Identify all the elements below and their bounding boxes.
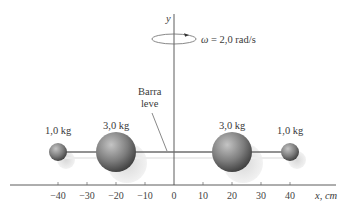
x-tick-label: 40 xyxy=(285,191,295,201)
x-tick-label: 10 xyxy=(198,191,208,201)
x-tick-label: 20 xyxy=(227,191,237,201)
mass-sphere-1kg-right xyxy=(281,143,299,161)
x-tick-label: −20 xyxy=(108,191,124,201)
mass-label-3: 3,0 kg xyxy=(219,121,245,132)
rod-label-line2: leve xyxy=(138,98,161,110)
y-axis-label: y xyxy=(166,14,171,25)
mass-sphere-3kg-left xyxy=(96,132,136,172)
rod-label-leader xyxy=(152,113,167,151)
diagram-canvas xyxy=(0,0,349,210)
angular-velocity-label: ω = 2,0 rad/s xyxy=(201,35,256,46)
x-tick-label: 30 xyxy=(256,191,266,201)
mass-sphere-1kg-left xyxy=(49,143,67,161)
rod-label: Barra leve xyxy=(138,86,161,109)
mass-label-2: 3,0 kg xyxy=(103,121,129,132)
x-tick-label: −10 xyxy=(137,191,153,201)
mass-label-1: 1,0 kg xyxy=(45,126,71,137)
x-tick-label: 0 xyxy=(172,191,177,201)
rod-label-line1: Barra xyxy=(138,86,161,98)
sphere-shadows xyxy=(57,143,306,183)
x-tick-label: −30 xyxy=(79,191,95,201)
x-axis-label-text: x, cm xyxy=(315,190,337,201)
mass-sphere-3kg-right xyxy=(212,132,252,172)
mass-label-4: 1,0 kg xyxy=(277,126,303,137)
x-tick-label: −40 xyxy=(50,191,66,201)
x-axis-label: x, cm xyxy=(315,191,337,202)
omega-value: = 2,0 rad/s xyxy=(208,34,255,45)
